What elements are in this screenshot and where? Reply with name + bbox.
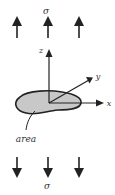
- stress-area-diagram: σ z y x area σ: [0, 0, 115, 195]
- arrow-up-icon: [43, 16, 53, 38]
- arrow-up-icon: [12, 16, 22, 38]
- y-axis-arrow-icon: [86, 77, 93, 84]
- sigma-top-label: σ: [43, 6, 50, 16]
- arrow-down-icon: [74, 157, 84, 178]
- arrow-up-icon: [74, 16, 84, 38]
- x-axis-label: x: [107, 99, 112, 108]
- top-stress-arrows: [12, 16, 84, 38]
- arrow-down-icon: [43, 157, 53, 178]
- arrow-down-icon: [12, 157, 22, 178]
- z-axis-arrow-icon: [46, 49, 53, 57]
- x-axis-arrow-icon: [96, 100, 104, 107]
- area-label: area: [16, 134, 36, 144]
- sigma-bottom-label: σ: [44, 181, 51, 191]
- z-axis-label: z: [38, 46, 44, 55]
- bottom-stress-arrows: [12, 157, 84, 178]
- y-axis-label: y: [95, 72, 101, 81]
